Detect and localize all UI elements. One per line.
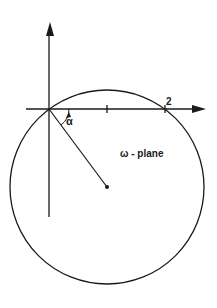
real-axis-arrow-icon	[192, 105, 206, 113]
omega-plane-diagram: α 2 ω - plane	[0, 0, 217, 308]
radius-line	[49, 109, 107, 187]
center-point	[105, 185, 109, 189]
plane-label: ω - plane	[120, 148, 164, 159]
imaginary-axis-arrow-icon	[46, 22, 54, 36]
tick-label-2: 2	[166, 96, 172, 107]
angle-label: α	[66, 115, 73, 127]
